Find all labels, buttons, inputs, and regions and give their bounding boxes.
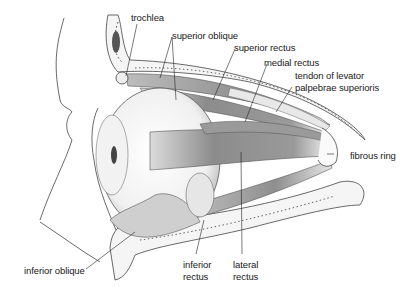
anatomy-drawing: [0, 0, 416, 293]
label-tendon-levator-line1: tendon of levator: [295, 70, 364, 81]
label-trochlea: trochlea: [131, 12, 164, 23]
label-lateral-rectus-line1: lateral: [233, 259, 258, 270]
label-lateral-rectus-line2: rectus: [233, 271, 258, 282]
eye-muscle-diagram: trochlea superior oblique superior rectu…: [0, 0, 416, 293]
label-superior-rectus: superior rectus: [234, 42, 295, 53]
label-inferior-oblique: inferior oblique: [24, 265, 85, 276]
label-medial-rectus: medial rectus: [264, 57, 319, 68]
label-superior-oblique: superior oblique: [172, 30, 238, 41]
label-fibrous-ring: fibrous ring: [350, 150, 396, 161]
label-inferior-rectus-line1: inferior: [183, 259, 211, 270]
label-tendon-levator-line2: palpebrae superioris: [295, 82, 379, 93]
label-inferior-rectus-line2: rectus: [183, 271, 208, 282]
